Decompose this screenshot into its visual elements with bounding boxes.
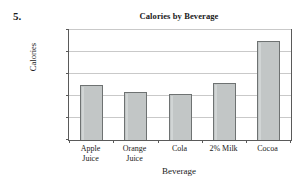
bar-apple-juice [80,85,103,140]
xtick-label-line1: Apple [68,144,113,154]
bar-highlight [259,43,261,140]
xtick-mark-4 [246,140,247,143]
problem-number: 5. [13,10,21,22]
chart-title: Calories by Beverage [68,11,290,21]
xtick-mark-5 [290,140,291,143]
gridline-250 [69,29,291,30]
xtick-label-line1: Cocoa [245,144,290,154]
y-axis-title: Calories [28,22,38,92]
bar-highlight [126,94,128,140]
xtick-mark-2 [158,140,159,143]
ytick-mark-200 [66,51,69,52]
xtick-label-line2: Juice [112,154,157,164]
xtick-label-cocoa: Cocoa [245,144,290,154]
xtick-mark-0 [69,140,70,143]
xtick-label-cola: Cola [157,144,202,154]
xtick-label-line1: Cola [157,144,202,154]
xtick-label-line2: Juice [68,154,113,164]
bar-highlight [215,85,217,140]
xtick-label-apple-juice: Apple Juice [68,144,113,164]
bar-2-percent-milk [213,83,236,140]
ytick-mark-150 [66,73,69,74]
xtick-label-line1: 2% Milk [201,144,246,154]
bar-orange-juice [124,92,147,140]
bar-highlight [82,87,84,140]
bar-highlight [171,96,173,140]
xtick-mark-1 [113,140,114,143]
xtick-label-orange-juice: Orange Juice [112,144,157,164]
xtick-label-2-percent-milk: 2% Milk [201,144,246,154]
plot-area: 250 200 150 100 50 0 [68,29,292,141]
ytick-mark-50 [66,117,69,118]
ytick-mark-250 [66,29,69,30]
x-axis-title: Beverage [68,166,290,176]
bar-chart-figure: 5. Calories by Beverage Calories 250 200… [0,0,301,182]
xtick-mark-3 [202,140,203,143]
xtick-label-line1: Orange [112,144,157,154]
bar-cocoa [257,41,280,140]
bar-cola [169,94,192,140]
ytick-mark-100 [66,95,69,96]
